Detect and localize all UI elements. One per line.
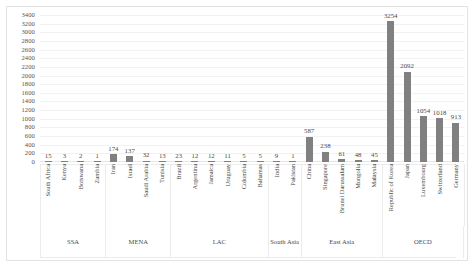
category-label: Botswana [78,164,84,189]
bar[interactable] [306,137,313,162]
bar[interactable] [322,152,329,162]
bar-slot: 5 [236,15,252,162]
bar[interactable] [289,161,296,162]
bar-value-label: 23 [175,153,182,160]
y-tick-label: 3200 [21,20,35,27]
category-cell: Israel [122,164,138,226]
bar-value-label: 61 [338,151,345,158]
y-tick-label: 800 [25,124,35,131]
category-cell: Germany [448,164,464,226]
category-label: Switzerland [436,164,442,195]
bar[interactable] [61,161,68,162]
bar[interactable] [273,161,280,162]
bar[interactable] [338,159,345,162]
bar[interactable] [94,161,101,162]
category-label: Pakistan [290,164,296,186]
bar-value-label: 3254 [384,13,398,20]
group-separator [40,164,41,226]
bar[interactable] [452,123,459,162]
group-separator [464,164,465,226]
bar[interactable] [191,161,198,162]
group-axis-labels: SSAMENALACSouth AsiaEast AsiaOECD [40,226,464,258]
bar[interactable] [420,116,427,162]
bar-value-label: 587 [304,128,314,135]
y-tick-label: 2600 [21,46,35,53]
category-cell: Republic of Korea [383,164,399,226]
category-cell: Zambia [89,164,105,226]
y-tick-label: 600 [25,133,35,140]
category-cell: Brunei Darussalam [334,164,350,226]
category-axis-labels: South AfricaKenyaBotswanaZambiaIranIsrae… [40,164,464,226]
category-cell: Botswana [73,164,89,226]
bar-value-label: 48 [355,152,362,159]
bar-slot: 15 [40,15,56,162]
bar-value-label: 2 [79,153,82,160]
y-tick-label: 1800 [21,81,35,88]
category-label: Uruguay [224,164,230,186]
bar-value-label: 1 [95,153,98,160]
bar-slot: 45 [366,15,382,162]
category-cell: Saudi Arabia [138,164,154,226]
category-label: India [273,164,279,177]
group-separator [105,164,106,226]
bar[interactable] [110,154,117,162]
bar[interactable] [224,161,231,162]
bar[interactable] [126,156,133,162]
group-band-bottom-border [40,257,456,258]
category-label: Malaysia [371,164,377,187]
plot-area: 1532117413732132312121155915872386148453… [40,15,464,162]
category-cell: Switzerland [432,164,448,226]
group-separator [268,164,269,226]
y-tick-label: 2800 [21,38,35,45]
bar[interactable] [387,21,394,162]
bar-slot: 238 [317,15,333,162]
bar-slot: 12 [187,15,203,162]
chart-container: 3400320030002800260024002200200018001600… [6,6,468,261]
category-label: South Africa [45,164,51,196]
bar[interactable] [404,72,411,162]
group-label-cell: East Asia [301,226,382,258]
category-label: Mongolia [355,164,361,189]
bar[interactable] [159,161,166,162]
bar-slot: 1018 [432,15,448,162]
bar[interactable] [175,161,182,162]
bar-slot: 913 [448,15,464,162]
category-label: Israel [127,164,133,178]
y-tick-label: 200 [25,150,35,157]
bar-value-label: 13 [159,153,166,160]
bar[interactable] [436,118,443,162]
bar-series: 1532117413732132312121155915872386148453… [40,15,464,162]
group-label-cell: OECD [382,226,464,258]
y-tick-label: 400 [25,141,35,148]
y-tick-label: 3000 [21,29,35,36]
bar-value-label: 1 [291,153,294,160]
bar[interactable] [77,161,84,162]
y-tick-label: 0 [32,159,35,166]
y-tick-label: 1000 [21,115,35,122]
bar[interactable] [240,161,247,162]
category-label: Luxembourg [420,164,426,197]
group-separator [301,164,302,226]
bar[interactable] [355,160,362,162]
category-label: Iran [110,164,116,174]
category-cell: Argentina [187,164,203,226]
bar[interactable] [208,161,215,162]
bar-value-label: 15 [45,153,52,160]
category-label: Saudi Arabia [143,164,149,197]
category-cell: Bahamas [252,164,268,226]
bar-value-label: 174 [108,146,118,153]
category-cell: China [301,164,317,226]
bar-slot: 587 [301,15,317,162]
category-label: Tunisia [159,164,165,183]
bar-value-label: 2092 [400,63,414,70]
bar-value-label: 9 [275,153,278,160]
bar[interactable] [45,161,52,162]
bar[interactable] [371,160,378,162]
bar[interactable] [143,161,150,162]
category-label: Colombia [241,164,247,189]
bar[interactable] [257,161,264,162]
category-cell: Mongolia [350,164,366,226]
category-label: Republic of Korea [388,164,394,211]
y-tick-label: 1400 [21,98,35,105]
category-cell: Japan [399,164,415,226]
